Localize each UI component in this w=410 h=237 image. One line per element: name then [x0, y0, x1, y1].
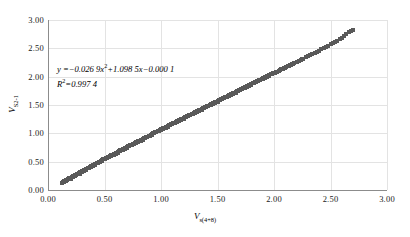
data-point [191, 112, 195, 116]
plot-area [48, 20, 387, 190]
data-point [258, 78, 262, 82]
y-axis-title: VS2-1 [7, 74, 19, 134]
y-tick-label: 1.50 [18, 100, 44, 110]
data-point [100, 159, 104, 163]
regression-annotation: y =−0.026 9x2+1.098 5x−0.000 1 R2=0.997 … [57, 60, 174, 91]
data-point [173, 121, 177, 125]
data-point [114, 152, 118, 156]
data-point [267, 74, 271, 78]
data-point [82, 169, 86, 173]
y-tick-label: 2.00 [18, 72, 44, 82]
gridline-vertical [387, 20, 388, 190]
r-squared-value: =0.997 4 [65, 79, 97, 89]
data-point [73, 174, 77, 178]
equation-remainder: +1.098 5x−0.000 1 [107, 64, 174, 74]
y-axis-line [48, 20, 49, 190]
data-point [118, 149, 122, 153]
x-tick-label: 1.50 [198, 194, 238, 204]
data-point [141, 138, 145, 142]
x-tick-label: 1.00 [141, 194, 181, 204]
data-point [78, 172, 82, 176]
data-point [273, 71, 277, 75]
data-point [123, 147, 127, 151]
y-tick-label: 1.00 [18, 128, 44, 138]
data-point [231, 92, 235, 96]
equation-body: =−0.026 9x [63, 64, 104, 74]
data-point [105, 156, 109, 160]
x-axis-line [48, 190, 387, 191]
data-point [150, 133, 154, 137]
data-point [69, 177, 73, 181]
data-point [168, 123, 172, 127]
data-point [222, 96, 226, 100]
data-point [136, 140, 140, 144]
data-point [177, 119, 181, 123]
data-point [240, 87, 244, 91]
y-axis-title-variable: V [7, 107, 17, 113]
data-point [182, 117, 186, 121]
data-point [291, 62, 295, 66]
data-point [245, 85, 249, 89]
r-squared-label: R2=0.997 4 [57, 75, 174, 90]
gridline-horizontal [48, 48, 387, 49]
data-point [154, 130, 158, 134]
data-point [91, 164, 95, 168]
data-point [300, 57, 304, 61]
y-tick-label: 2.50 [18, 43, 44, 53]
data-point [195, 110, 199, 114]
data-point [200, 108, 204, 112]
data-point [204, 105, 208, 109]
x-tick-label: 3.00 [367, 194, 407, 204]
data-point [249, 83, 253, 87]
data-point [263, 76, 267, 80]
y-axis-title-subscript: S2-1 [12, 95, 19, 107]
regression-equation: y =−0.026 9x2+1.098 5x−0.000 1 [57, 60, 174, 75]
x-tick-label: 0.00 [28, 194, 68, 204]
data-point [109, 154, 113, 158]
data-point [159, 128, 163, 132]
x-tick-label: 0.50 [85, 194, 125, 204]
data-point [282, 66, 286, 70]
x-axis-title-subscript: s(4+8) [199, 216, 216, 223]
x-axis-title: Vs(4+8) [0, 211, 410, 223]
data-point [351, 28, 355, 32]
data-point [213, 101, 217, 105]
data-point [145, 135, 149, 139]
data-point [164, 126, 168, 130]
gridline-horizontal [48, 20, 387, 21]
data-point [64, 179, 68, 183]
data-point [87, 166, 91, 170]
data-point [132, 142, 136, 146]
data-point [236, 89, 240, 93]
y-tick-label: 3.00 [18, 15, 44, 25]
data-point [254, 80, 258, 84]
gridline-horizontal [48, 133, 387, 134]
data-point [227, 94, 231, 98]
gridline-horizontal [48, 105, 387, 106]
data-point [186, 114, 190, 118]
y-tick-label: 0.50 [18, 157, 44, 167]
x-tick-label: 2.50 [311, 194, 351, 204]
data-point [127, 144, 131, 148]
x-tick-label: 2.00 [254, 194, 294, 204]
data-point [96, 161, 100, 165]
data-point [218, 98, 222, 102]
data-point [209, 103, 213, 107]
scatter-chart-figure: 0.000.501.001.502.002.503.00 0.000.501.0… [0, 0, 410, 237]
